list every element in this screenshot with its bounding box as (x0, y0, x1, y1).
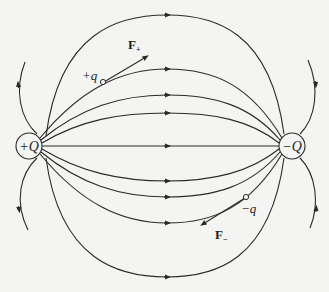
charge-label-positive: +Q (19, 139, 39, 154)
test-charge-label-negative: −q (241, 201, 257, 216)
field-line-upper-1 (40, 69, 282, 138)
test-charge-label-positive: +q (82, 68, 98, 83)
dipole-field-diagram: +Q −Q +q −q F+ F− (0, 0, 329, 292)
charge-label-negative: −Q (282, 139, 302, 154)
field-line-arrow (19, 206, 20, 210)
field-line-left-down (20, 158, 37, 230)
force-arrow-negative (203, 198, 245, 224)
field-lines (18, 15, 316, 277)
test-charge-negative (243, 194, 248, 199)
field-line-bottom-outer (46, 158, 284, 277)
field-line-right-down (300, 60, 315, 134)
force-label-negative: F− (215, 227, 228, 244)
field-line-left-up (19, 62, 37, 134)
field-line-right-up (300, 158, 315, 228)
force-arrow-positive (104, 57, 146, 82)
field-line-upper-3 (42, 113, 279, 143)
force-label-negative-sub: − (223, 235, 228, 244)
force-label-negative-main: F (215, 227, 223, 242)
force-label-positive-main: F (128, 37, 136, 52)
force-vectors (104, 57, 245, 224)
force-label-positive-sub: + (136, 45, 141, 54)
force-label-positive: F+ (128, 37, 141, 54)
test-charge-positive (100, 79, 105, 84)
